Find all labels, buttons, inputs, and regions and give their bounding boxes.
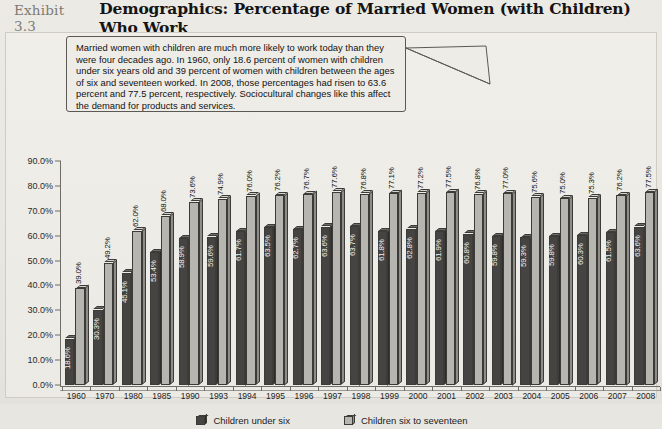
bar-value-label: 74.9% (216, 173, 225, 195)
bar-value-label: 62.7% (291, 237, 300, 259)
x-axis-tick-label: 1960 (67, 391, 86, 401)
x-axis-tick-label: 1994 (238, 391, 257, 401)
bar-value-label: 62.0% (131, 205, 140, 227)
bar-six-to-seventeen-1996 (303, 194, 312, 385)
bar-value-label: 76.8% (473, 168, 482, 190)
y-axis-tick-label: 20.0% (27, 330, 53, 340)
bar-value-label: 75.6% (530, 171, 539, 193)
y-axis-tick-label: 10.0% (27, 355, 53, 365)
x-axis-tick-mark (432, 387, 433, 391)
x-axis-tick-mark (233, 387, 234, 391)
annotation-text: Married women with children are much mor… (76, 42, 396, 112)
x-axis-tick-label: 2004 (522, 391, 541, 401)
x-axis-tick-mark (176, 387, 177, 391)
bar-value-label: 77.2% (416, 167, 425, 189)
bar-value-label: 77.6% (330, 166, 339, 188)
x-axis-tick-mark (375, 387, 376, 391)
bar-six-to-seventeen-1960 (75, 288, 84, 385)
bar-value-label: 63.5% (263, 235, 272, 257)
x-axis-tick-label: 1980 (124, 391, 143, 401)
x-axis-tick-label: 1970 (95, 391, 114, 401)
bar-six-to-seventeen-1990 (189, 202, 198, 385)
x-axis-tick-label: 2000 (408, 391, 427, 401)
x-axis-tick-mark (347, 387, 348, 391)
chart-legend: Children under six Children six to seven… (6, 411, 658, 429)
x-axis-tick-label: 2003 (494, 391, 513, 401)
x-axis-tick-mark (632, 387, 633, 391)
x-axis-tick-mark (660, 387, 661, 391)
bar-six-to-seventeen-2003 (503, 193, 512, 385)
bar-value-label: 62.8% (405, 237, 414, 259)
bar-six-to-seventeen-1993 (218, 199, 227, 385)
bar-value-label: 39.0% (74, 262, 83, 284)
x-axis-tick-label: 2006 (579, 391, 598, 401)
bar-value-label: 30.3% (92, 318, 101, 340)
bar-six-to-seventeen-1985 (161, 216, 170, 385)
bar-six-to-seventeen-2006 (588, 198, 597, 385)
x-axis-tick-label: 1996 (295, 391, 314, 401)
x-axis-tick-mark (461, 387, 462, 391)
legend-label-under-six: Children under six (213, 415, 290, 426)
bar-value-label: 58.9% (177, 247, 186, 269)
bar-six-to-seventeen-2007 (616, 195, 625, 385)
bar-six-to-seventeen-2008 (645, 192, 654, 385)
y-axis-tick-label: 70.0% (27, 206, 53, 216)
exhibit-number: Exhibit 3.3 (14, 2, 83, 34)
legend-item-children-under-six: Children under six (196, 415, 290, 426)
bar-value-label: 63.6% (633, 235, 642, 257)
x-axis-tick-mark (261, 387, 262, 391)
bar-value-label: 63.7% (348, 235, 357, 257)
y-axis-tick-label: 30.0% (27, 305, 53, 315)
bar-six-to-seventeen-2005 (560, 198, 569, 385)
x-axis-tick-mark (119, 387, 120, 391)
bar-six-to-seventeen-1980 (132, 231, 141, 385)
x-axis-tick-mark (318, 387, 319, 391)
x-axis-tick-mark (204, 387, 205, 391)
y-axis-tick-label: 80.0% (27, 181, 53, 191)
bar-value-label: 61.7% (234, 240, 243, 262)
bar-six-to-seventeen-1997 (332, 192, 341, 385)
x-axis-tick-label: 1997 (323, 391, 342, 401)
bar-value-label: 53.4% (149, 260, 158, 282)
bar-six-to-seventeen-1970 (104, 263, 113, 385)
x-axis-tick-mark (90, 387, 91, 391)
x-axis-tick-mark (603, 387, 604, 391)
x-axis-tick-label: 1985 (152, 391, 171, 401)
x-axis-tick-mark (147, 387, 148, 391)
x-axis-tick-mark (62, 387, 63, 391)
bar-value-label: 76.2% (273, 170, 282, 192)
x-axis-tick-label: 1993 (209, 391, 228, 401)
bar-value-label: 60.8% (462, 242, 471, 264)
x-axis-tick-mark (489, 387, 490, 391)
x-axis-tick-mark (290, 387, 291, 391)
y-axis-tick-label: 40.0% (27, 280, 53, 290)
bar-value-label: 77.5% (444, 166, 453, 188)
annotation-callout: Married women with children are much mor… (66, 36, 406, 112)
bar-value-label: 76.2% (615, 170, 624, 192)
bar-value-label: 61.9% (434, 239, 443, 261)
x-axis-tick-mark (546, 387, 547, 391)
bar-value-label: 59.8% (547, 244, 556, 266)
x-axis-tick-label: 2007 (608, 391, 627, 401)
bar-value-label: 76.0% (245, 170, 254, 192)
y-axis-line (60, 161, 61, 387)
x-axis-labels: 1960197019801985199019931994199519961997… (62, 391, 660, 407)
bar-value-label: 76.7% (302, 168, 311, 190)
x-axis-tick-mark (518, 387, 519, 391)
x-axis-tick-mark (575, 387, 576, 391)
x-axis-tick-label: 1999 (380, 391, 399, 401)
exhibit-header: Exhibit 3.3 Demographics: Percentage of … (0, 4, 662, 32)
x-axis-tick-label: 2002 (465, 391, 484, 401)
y-axis-tick-label: 50.0% (27, 256, 53, 266)
bar-value-label: 77.0% (501, 168, 510, 190)
bar-value-label: 75.3% (587, 172, 596, 194)
plot-area: 18.6%39.0%30.3%49.2%45.1%62.0%53.4%68.0%… (62, 161, 660, 385)
bar-six-to-seventeen-1998 (360, 194, 369, 385)
bar-six-to-seventeen-1999 (389, 193, 398, 385)
legend-swatch-light-icon (344, 415, 354, 425)
bar-value-label: 77.1% (387, 167, 396, 189)
y-axis: 90.0%80.0%70.0%60.0%50.0%40.0%30.0%20.0%… (6, 157, 62, 389)
bar-value-label: 45.1% (120, 281, 129, 303)
x-axis-tick-label: 1990 (181, 391, 200, 401)
bar-value-label: 59.3% (519, 246, 528, 268)
